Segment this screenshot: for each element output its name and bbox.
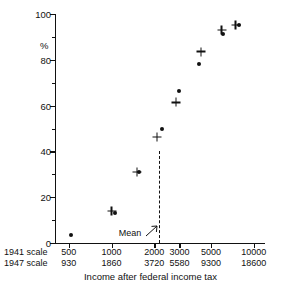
- y-tick-label: 20: [40, 193, 51, 203]
- x-scale-row-1941: 1941 scale500100020003000500010000: [0, 247, 301, 258]
- data-point-plus: [171, 98, 180, 107]
- y-tick-label: 100: [35, 10, 51, 20]
- x-tick-label: 5000: [201, 247, 221, 258]
- plot-area: 020406080100 Mean: [55, 14, 265, 243]
- data-point-dot: [160, 127, 164, 131]
- y-tick-minor: [52, 83, 55, 84]
- x-scale-row-1947: 1947 scale930186037205580930018600: [0, 258, 301, 269]
- y-tick-label: 60: [40, 101, 51, 111]
- x-tick-label: 3000: [169, 247, 189, 258]
- data-point-plus: [133, 168, 142, 177]
- y-axis-label: %: [40, 40, 48, 51]
- x-axis-line: [55, 243, 265, 244]
- x-tick-label: 1860: [102, 258, 122, 269]
- x-scale-name-1947: 1947 scale: [4, 258, 48, 269]
- y-tick-minor: [52, 129, 55, 130]
- data-point-plus: [196, 47, 205, 56]
- x-tick-label: 3720: [144, 258, 164, 269]
- data-point-plus: [152, 132, 161, 141]
- x-tick-label: 5580: [169, 258, 189, 269]
- x-axis-title: Income after federal income tax: [0, 271, 301, 282]
- chart-figure: % 020406080100 Mean 1941 scale5001000200…: [0, 0, 301, 287]
- x-tick-label: 1000: [102, 247, 122, 258]
- x-tick-label: 930: [61, 258, 76, 269]
- data-point-plus: [231, 20, 240, 29]
- data-point-dot: [177, 89, 181, 93]
- mean-label: Mean: [119, 228, 142, 238]
- data-point-plus: [217, 26, 226, 35]
- mean-arrow-icon: [145, 224, 161, 238]
- x-scale-name-1941: 1941 scale: [4, 247, 48, 258]
- x-tick-label: 10000: [241, 247, 266, 258]
- y-tick-label: 80: [40, 55, 51, 65]
- x-tick-label: 2000: [144, 247, 164, 258]
- data-point-plus: [107, 206, 116, 215]
- y-tick-minor: [52, 174, 55, 175]
- data-point-dot: [69, 233, 73, 237]
- y-tick-minor: [52, 220, 55, 221]
- y-tick-label: 40: [40, 147, 51, 157]
- data-point-dot: [197, 62, 201, 66]
- x-tick-label: 9300: [201, 258, 221, 269]
- y-axis-line: [55, 14, 56, 243]
- y-tick-minor: [52, 37, 55, 38]
- x-tick-label: 18600: [241, 258, 266, 269]
- x-tick-label: 500: [61, 247, 76, 258]
